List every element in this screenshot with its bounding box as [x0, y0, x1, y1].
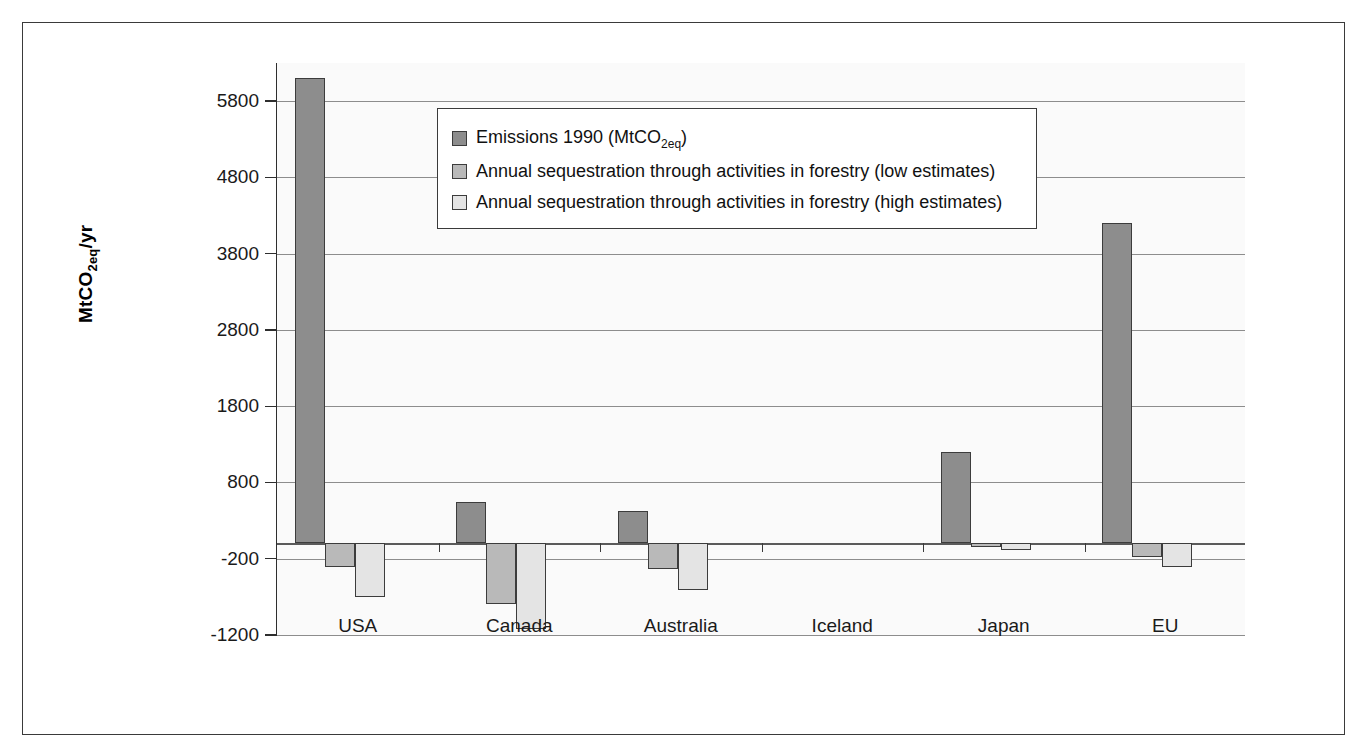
y-axis-tick-label: -1200: [129, 624, 259, 646]
y-axis-tick: [265, 100, 277, 101]
legend-swatch-icon: [452, 131, 467, 146]
bar-australia-series0: [618, 511, 648, 543]
gridline: [277, 406, 1245, 407]
legend-item-1: Annual sequestration through activities …: [452, 161, 1022, 182]
x-axis-tick: [600, 543, 601, 552]
legend-swatch-icon: [452, 195, 467, 210]
y-axis-tick: [265, 253, 277, 254]
y-axis-title: MtCO2eq/yr: [75, 225, 100, 323]
gridline: [277, 482, 1245, 483]
y-axis-tick-label: -200: [129, 548, 259, 570]
x-axis-label-iceland: Iceland: [812, 615, 873, 637]
bar-eu-series2: [1162, 543, 1192, 567]
gridline: [277, 101, 1245, 102]
y-axis-tick: [265, 482, 277, 483]
y-axis-tick-label: 1800: [129, 395, 259, 417]
x-axis-label-usa: USA: [338, 615, 377, 637]
bar-canada-series0: [456, 502, 486, 543]
gridline: [277, 635, 1245, 636]
bar-australia-series1: [648, 543, 678, 568]
bar-australia-series2: [678, 543, 708, 590]
y-axis-tick: [265, 406, 277, 407]
bar-canada-series1: [486, 543, 516, 604]
y-axis-tick: [265, 177, 277, 178]
y-axis-tick-label: 2800: [129, 319, 259, 341]
y-axis-tick: [265, 634, 277, 635]
y-axis-tick-label: 800: [129, 471, 259, 493]
legend-label: Annual sequestration through activities …: [476, 192, 1002, 213]
gridline: [277, 559, 1245, 560]
legend-item-0: Emissions 1990 (MtCO2eq): [452, 127, 1022, 151]
figure-frame: MtCO2eq/yr 58004800380028001800800-200-1…: [22, 22, 1345, 735]
legend-item-2: Annual sequestration through activities …: [452, 192, 1022, 213]
legend-label: Annual sequestration through activities …: [476, 161, 995, 182]
x-axis-label-japan: Japan: [978, 615, 1030, 637]
x-axis-label-eu: EU: [1152, 615, 1178, 637]
gridline: [277, 330, 1245, 331]
x-axis-tick: [762, 543, 763, 552]
bar-japan-series2: [1001, 543, 1031, 549]
bar-japan-series1: [971, 543, 1001, 547]
y-axis-tick: [265, 558, 277, 559]
gridline: [277, 254, 1245, 255]
bar-eu-series0: [1102, 223, 1132, 543]
x-axis-tick: [1085, 543, 1086, 552]
bar-usa-series1: [325, 543, 355, 567]
x-axis-tick: [923, 543, 924, 552]
y-axis-tick: [265, 329, 277, 330]
legend-swatch-icon: [452, 164, 467, 179]
bar-japan-series0: [941, 452, 971, 544]
y-axis-tick-label: 5800: [129, 90, 259, 112]
x-axis-label-canada: Canada: [486, 615, 553, 637]
bar-eu-series1: [1132, 543, 1162, 557]
x-axis-label-australia: Australia: [644, 615, 718, 637]
legend-label: Emissions 1990 (MtCO2eq): [476, 127, 687, 151]
x-axis-tick: [439, 543, 440, 552]
bar-usa-series2: [355, 543, 385, 596]
bar-usa-series0: [295, 78, 325, 543]
chart-legend: Emissions 1990 (MtCO2eq)Annual sequestra…: [437, 108, 1037, 229]
y-axis-tick-label: 3800: [129, 243, 259, 265]
y-axis-tick-label: 4800: [129, 166, 259, 188]
